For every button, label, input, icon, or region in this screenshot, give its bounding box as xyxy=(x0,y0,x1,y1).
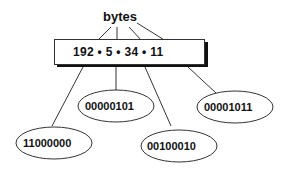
bytes-title: bytes xyxy=(103,9,137,24)
title-connector-lines xyxy=(97,23,166,41)
binary-label-5: 00000101 xyxy=(85,100,134,112)
binary-label-11: 00001011 xyxy=(204,101,252,113)
binary-label-34: 00100010 xyxy=(147,140,196,152)
binary-label-192: 11000000 xyxy=(23,137,71,149)
ip-address-diagram: bytes 192 • 5 • 34 • 11 11000000 0000010… xyxy=(0,0,290,170)
ip-address-text: 192 • 5 • 34 • 11 xyxy=(73,45,163,59)
